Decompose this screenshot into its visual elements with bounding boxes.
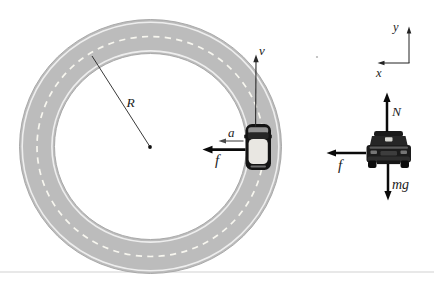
normal-force-label: N <box>391 104 402 119</box>
car-top-view-icon <box>244 124 272 170</box>
acceleration-label: a <box>228 125 235 140</box>
fbd-friction-arrowhead-icon <box>327 149 337 156</box>
car-front-view-icon <box>367 131 412 168</box>
physics-figure: R v a f <box>0 0 434 286</box>
weight-arrowhead-icon <box>384 191 391 201</box>
fbd-friction-label: f <box>338 157 344 173</box>
fbd-car-right-headlight <box>401 151 408 154</box>
radius-label: R <box>126 95 136 110</box>
fbd-car-mirror <box>385 137 393 141</box>
fbd-car-undershadow <box>377 161 400 165</box>
velocity-arrowhead-icon <box>253 55 258 63</box>
fbd-car-grille <box>381 151 398 155</box>
fbd-friction-vector: f <box>327 149 367 173</box>
normal-force-arrowhead-icon <box>383 93 390 103</box>
weight-vector: mg <box>384 164 409 201</box>
coordinate-axes: y x <box>375 20 411 80</box>
y-axis-arrowhead-icon <box>407 27 412 34</box>
fbd-car-left-wheel <box>368 161 377 169</box>
car-windshield <box>248 132 269 139</box>
car-roof <box>249 139 268 164</box>
fbd-car-left-headlight <box>371 151 378 154</box>
fbd-car-right-wheel <box>401 161 410 169</box>
normal-force-vector: N <box>383 93 402 133</box>
free-body-diagram: N f mg <box>327 93 412 201</box>
stray-dot <box>316 56 318 58</box>
x-axis-label: x <box>375 66 382 80</box>
fbd-car-hood-line <box>370 147 409 149</box>
y-axis-label: y <box>391 20 399 34</box>
figure-svg: R v a f <box>0 0 434 286</box>
velocity-label: v <box>259 43 265 58</box>
x-axis-arrowhead-icon <box>378 61 385 66</box>
center-dot <box>148 145 152 149</box>
weight-label: mg <box>392 177 409 192</box>
car-rear-bar <box>251 166 267 168</box>
